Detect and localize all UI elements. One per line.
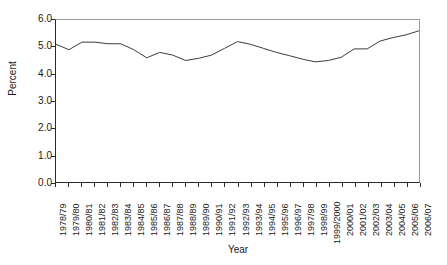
- x-axis-tick-mark: [81, 183, 82, 187]
- x-axis-tick-label: 1986/87: [163, 203, 172, 236]
- x-axis-tick-label: 1979/80: [72, 203, 81, 236]
- x-axis-tick-label: 1988/89: [189, 203, 198, 236]
- x-axis-tick-mark: [381, 183, 382, 187]
- x-axis-tick-mark: [211, 183, 212, 187]
- x-axis-tick-mark: [185, 183, 186, 187]
- x-axis-tick-mark: [172, 183, 173, 187]
- x-axis-tick-mark: [290, 183, 291, 187]
- x-axis-tick-label: 2005/06: [411, 203, 420, 236]
- x-axis-tick-mark: [94, 183, 95, 187]
- x-axis-tick-mark: [264, 183, 265, 187]
- x-axis-tick-label: 1997/98: [307, 203, 316, 236]
- x-axis-title: Year: [55, 244, 421, 255]
- x-axis-tick-mark: [407, 183, 408, 187]
- x-axis-tick-label: 2000/01: [346, 203, 355, 236]
- x-axis-tick-mark: [107, 183, 108, 187]
- x-axis-tick-label: 1990/91: [215, 203, 224, 236]
- x-axis-tick-label: 1981/82: [98, 203, 107, 236]
- y-axis-tick-label: 6.0: [38, 14, 52, 24]
- x-axis-tick-mark: [342, 183, 343, 187]
- plot-area: [55, 19, 420, 183]
- x-axis-tick-label: 1996/97: [294, 203, 303, 236]
- x-axis-tick-mark: [329, 183, 330, 187]
- x-axis-tick-label: 1985/86: [150, 203, 159, 236]
- y-axis-tick-label: 2.0: [38, 123, 52, 133]
- x-axis-tick-mark: [394, 183, 395, 187]
- x-axis-tick-label: 2006/07: [424, 203, 433, 236]
- y-axis-tick-label: 1.0: [38, 151, 52, 161]
- line-series-svg: [56, 20, 419, 182]
- chart-figure: Percent 6.05.04.03.02.01.00.0 1978/79197…: [0, 0, 447, 265]
- x-axis-tick-mark: [303, 183, 304, 187]
- data-line-percent: [56, 31, 419, 62]
- x-axis-tick-label: 1989/90: [202, 203, 211, 236]
- x-axis-tick-labels: 1978/791979/801980/811981/821982/831983/…: [55, 188, 421, 244]
- y-axis-tick-label: 0.0: [38, 178, 52, 188]
- y-axis-tick-label: 4.0: [38, 69, 52, 79]
- x-axis-tick-mark: [355, 183, 356, 187]
- x-axis-tick-label: 1998/99: [320, 203, 329, 236]
- y-axis-tick-labels: 6.05.04.03.02.01.00.0: [18, 0, 52, 265]
- y-axis-tick-label: 3.0: [38, 96, 52, 106]
- x-axis-tick-label: 1991/92: [228, 203, 237, 236]
- x-axis-tick-label: 1995/96: [281, 203, 290, 236]
- x-axis-tick-mark: [133, 183, 134, 187]
- x-axis-tick-label: 1987/88: [176, 203, 185, 236]
- x-axis-tick-label: 2003/04: [385, 203, 394, 236]
- x-axis-tick-label: 2002/03: [372, 203, 381, 236]
- x-axis-tick-label: 1984/85: [137, 203, 146, 236]
- x-axis-tick-label: 1980/81: [85, 203, 94, 236]
- x-axis-tick-label: 1992/93: [242, 203, 251, 236]
- x-axis-tick-mark: [368, 183, 369, 187]
- x-axis-tick-label: 1983/84: [124, 203, 133, 236]
- x-axis-tick-mark: [198, 183, 199, 187]
- x-axis-tick-label: 1978/79: [59, 203, 68, 236]
- x-axis-tick-label: 1993/94: [255, 203, 264, 236]
- x-axis-tick-label: 1982/83: [111, 203, 120, 236]
- y-axis-tick-label: 5.0: [38, 41, 52, 51]
- x-axis-tick-mark: [251, 183, 252, 187]
- y-axis-title: Percent: [7, 39, 18, 119]
- x-axis-tick-mark: [68, 183, 69, 187]
- x-axis-tick-mark: [277, 183, 278, 187]
- x-axis-tick-mark: [146, 183, 147, 187]
- x-axis-tick-mark: [420, 183, 421, 187]
- x-axis-tick-label: 1994/95: [268, 203, 277, 236]
- x-axis-tick-label: 2001/02: [359, 203, 368, 236]
- x-axis-tick-mark: [159, 183, 160, 187]
- x-axis-tick-label: 2004/05: [398, 203, 407, 236]
- x-axis-tick-mark: [238, 183, 239, 187]
- x-axis-tick-mark: [55, 183, 56, 187]
- x-axis-tick-label: 1999/2000: [333, 201, 342, 244]
- x-axis-tick-mark: [120, 183, 121, 187]
- x-axis-tick-mark: [224, 183, 225, 187]
- x-axis-tick-mark: [316, 183, 317, 187]
